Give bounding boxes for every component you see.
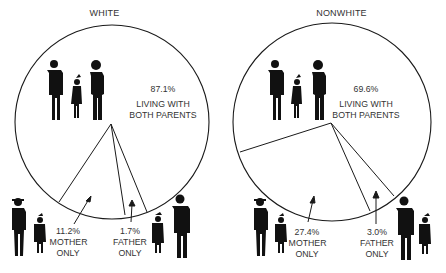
slice-value: 87.1% bbox=[125, 83, 200, 94]
slice-label: MOTHER bbox=[289, 237, 326, 248]
slice-label: ONLY bbox=[112, 247, 149, 258]
mother-child-silhouette-icon bbox=[12, 198, 46, 256]
slice-label: FATHER bbox=[112, 236, 149, 247]
mother-child-silhouette-icon bbox=[254, 198, 287, 256]
slice-label: LIVING WITH bbox=[125, 98, 200, 109]
slice-value: 27.4% bbox=[289, 226, 326, 237]
slice-label: ONLY bbox=[50, 247, 87, 258]
slice-value: 1.7% bbox=[112, 225, 149, 236]
pie-chart-nonwhite: NONWHITE bbox=[223, 0, 446, 273]
slice-label-father-only: 1.7% FATHER ONLY bbox=[112, 225, 149, 258]
slice-label-both-parents: 87.1% LIVING WITH BOTH PARENTS bbox=[125, 83, 200, 120]
pie-graphic bbox=[223, 0, 446, 273]
slice-label: BOTH PARENTS bbox=[125, 109, 200, 120]
family-silhouette-icon bbox=[268, 60, 326, 120]
slice-label: FATHER bbox=[359, 237, 396, 248]
father-child-silhouette-icon bbox=[152, 195, 190, 259]
slice-label: ONLY bbox=[289, 248, 326, 259]
family-silhouette-icon bbox=[47, 60, 104, 120]
father-child-silhouette-icon bbox=[396, 197, 431, 261]
slice-value: 11.2% bbox=[50, 225, 87, 236]
slice-label: LIVING WITH bbox=[328, 98, 403, 109]
slice-label-mother-only: 11.2% MOTHER ONLY bbox=[50, 225, 87, 258]
pie-chart-white: WHITE bbox=[0, 0, 223, 273]
slice-label-mother-only: 27.4% MOTHER ONLY bbox=[289, 226, 326, 259]
slice-label: MOTHER bbox=[50, 236, 87, 247]
slice-value: 69.6% bbox=[328, 83, 403, 94]
slice-value: 3.0% bbox=[359, 226, 396, 237]
slice-label-both-parents: 69.6% LIVING WITH BOTH PARENTS bbox=[328, 83, 403, 120]
slice-label: ONLY bbox=[359, 248, 396, 259]
arrow-icon bbox=[74, 196, 135, 224]
slice-label: BOTH PARENTS bbox=[328, 109, 403, 120]
slice-label-father-only: 3.0% FATHER ONLY bbox=[359, 226, 396, 259]
